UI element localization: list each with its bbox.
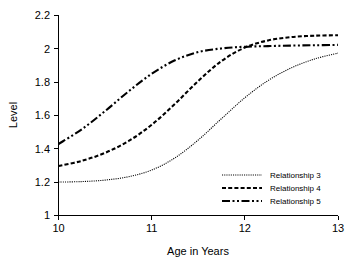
legend-label-relationship-4: Relationship 4	[270, 184, 321, 193]
y-tick-label: 1.6	[35, 109, 50, 121]
y-tick-label: 1.2	[35, 176, 50, 188]
y-tick-label: 2.2	[35, 9, 50, 21]
y-tick-label: 1.4	[35, 143, 50, 155]
y-tick-label: 1	[44, 209, 50, 221]
chart-figure: 1 1.2 1.4 1.6 1.8 2 2.2 Level 10 11 12	[0, 0, 358, 263]
x-axis-title: Age in Years	[167, 245, 229, 257]
x-tick-label: 12	[239, 222, 251, 234]
line-chart: 1 1.2 1.4 1.6 1.8 2 2.2 Level 10 11 12	[0, 0, 358, 263]
legend-label-relationship-3: Relationship 3	[270, 171, 321, 180]
x-tick-label: 11	[146, 222, 157, 234]
x-tick-label: 10	[52, 222, 64, 234]
y-tick-label: 2	[44, 43, 50, 55]
legend-label-relationship-5: Relationship 5	[270, 197, 321, 206]
x-tick-label: 13	[332, 222, 344, 234]
y-axis-title: Level	[7, 102, 19, 128]
y-tick-label: 1.8	[35, 76, 50, 88]
